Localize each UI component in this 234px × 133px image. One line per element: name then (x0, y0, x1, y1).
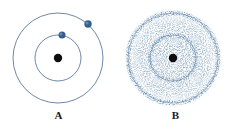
panel-electron-cloud-model: B (117, 0, 234, 133)
nucleus (54, 54, 62, 62)
outer-electron (84, 20, 91, 27)
panel-b-label: B (117, 108, 234, 122)
panel-a-canvas (0, 0, 117, 110)
panel-a-label: A (0, 108, 117, 122)
panel-b-canvas (117, 0, 234, 110)
inner-electron (59, 32, 66, 39)
nucleus (169, 54, 177, 62)
panel-bohr-model: A (0, 0, 117, 133)
atom-models-figure: A (0, 0, 234, 133)
